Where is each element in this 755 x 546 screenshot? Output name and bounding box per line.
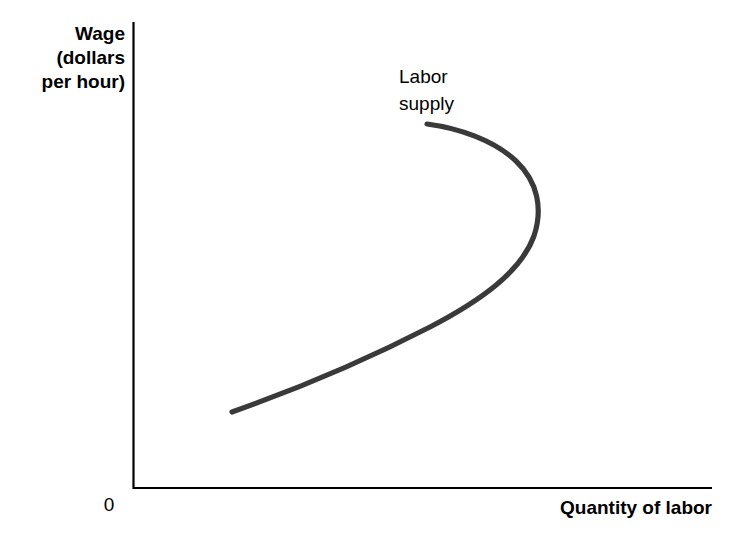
labor-supply-chart: Wage (dollars per hour) Quantity of labo…	[0, 0, 755, 546]
y-axis-label: Wage (dollars per hour)	[0, 22, 125, 94]
labor-supply-curve-label: Labor supply	[399, 63, 454, 117]
x-axis-label: Quantity of labor	[430, 497, 712, 519]
origin-label: 0	[96, 494, 122, 516]
labor-supply-curve	[232, 124, 538, 412]
